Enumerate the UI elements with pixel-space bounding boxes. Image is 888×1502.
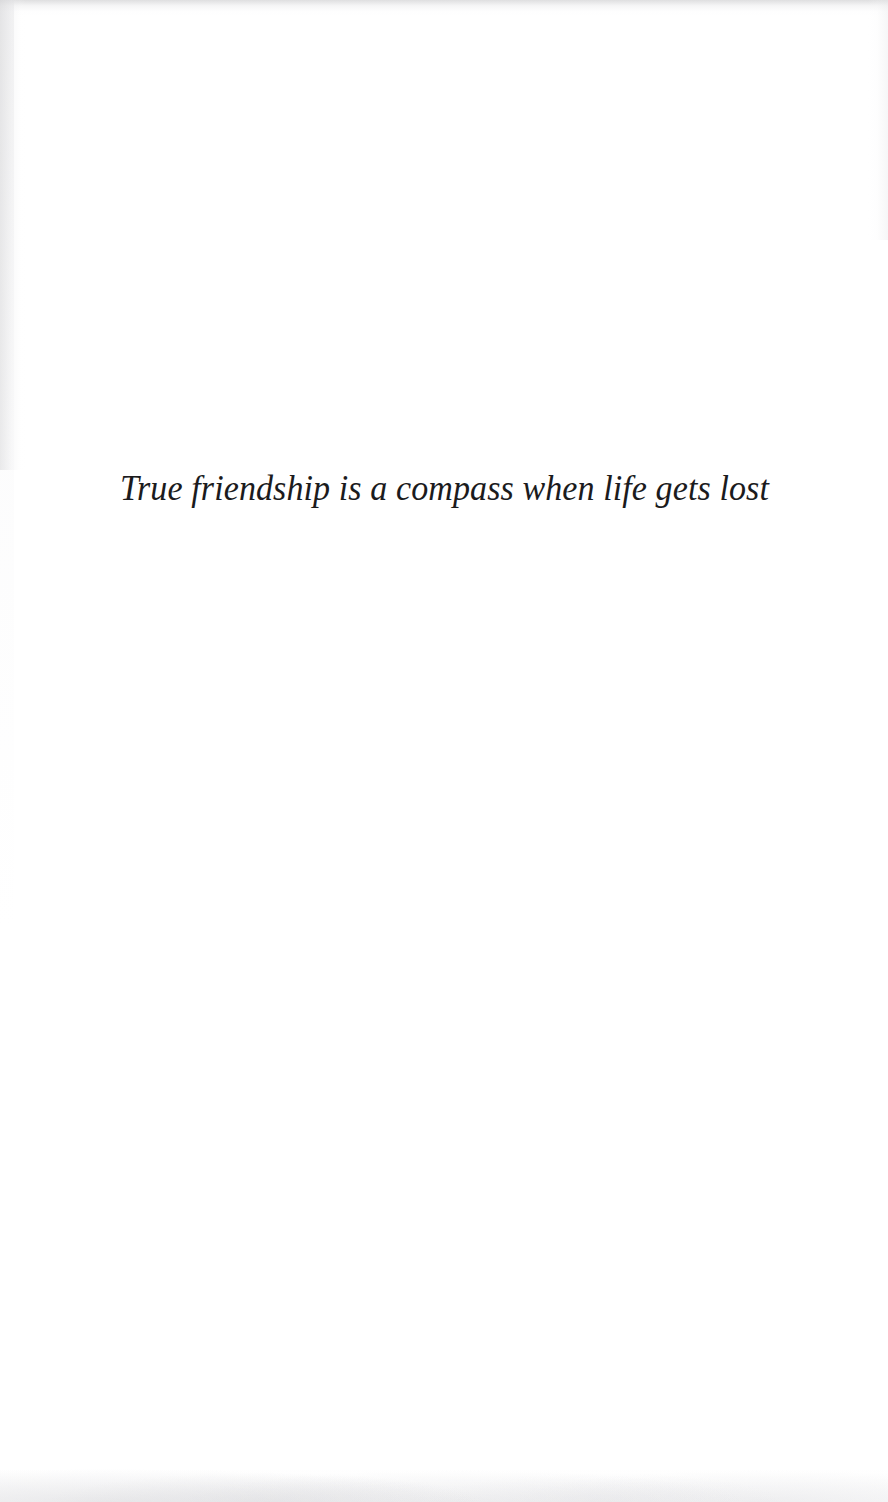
- scan-edge-right-artifact: [868, 0, 888, 240]
- quote-page: True friendship is a compass when life g…: [0, 0, 888, 1502]
- scan-edge-top-artifact: [0, 0, 888, 16]
- quote-block: True friendship is a compass when life g…: [0, 470, 888, 506]
- scan-edge-left-artifact: [0, 0, 26, 470]
- quote-text: True friendship is a compass when life g…: [119, 470, 768, 506]
- scan-edge-bottom-artifact: [0, 1468, 888, 1502]
- scan-edge-left-fade-artifact: [0, 0, 14, 1502]
